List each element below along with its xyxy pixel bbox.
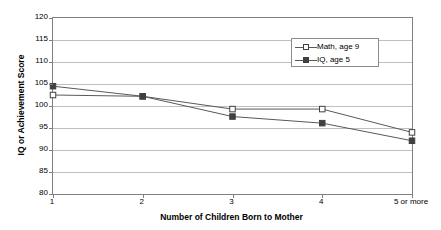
data-point-marker xyxy=(409,130,415,136)
legend-label: IQ, age 5 xyxy=(317,55,350,65)
x-axis-title: Number of Children Born to Mother xyxy=(52,212,411,222)
legend-entry: Math, age 9 xyxy=(295,41,375,53)
y-axis-tick xyxy=(49,18,53,19)
y-axis-tick-labels: 80859095100105110115120 xyxy=(0,0,48,230)
y-axis-tick xyxy=(49,150,53,151)
data-point-marker xyxy=(50,92,56,98)
x-axis-tick-labels: 12345 or more xyxy=(52,197,411,209)
y-tick-label: 100 xyxy=(4,101,48,109)
y-tick-label: 95 xyxy=(4,123,48,131)
y-tick-label: 90 xyxy=(4,145,48,153)
data-point-marker xyxy=(320,106,326,112)
x-tick-label: 2 xyxy=(140,197,144,207)
y-tick-label: 80 xyxy=(4,189,48,197)
data-point-marker xyxy=(409,138,415,144)
legend-entry: IQ, age 5 xyxy=(295,54,375,66)
open-square-icon xyxy=(295,42,317,53)
x-tick-label: 5 or more xyxy=(394,197,428,207)
filled-square-icon xyxy=(295,55,317,66)
x-tick-label: 4 xyxy=(319,197,323,207)
x-tick-label: 1 xyxy=(50,197,54,207)
y-axis-tick xyxy=(49,172,53,173)
y-axis-tick xyxy=(49,40,53,41)
y-axis-tick xyxy=(49,62,53,63)
line-chart: IQ or Achievement Score 8085909510010511… xyxy=(0,0,441,230)
y-tick-label: 105 xyxy=(4,79,48,87)
data-point-marker xyxy=(140,94,146,100)
legend-label: Math, age 9 xyxy=(317,42,359,52)
y-axis-tick xyxy=(49,128,53,129)
y-axis-tick xyxy=(49,84,53,85)
data-point-marker xyxy=(320,120,326,126)
data-point-marker xyxy=(230,106,236,112)
y-tick-label: 110 xyxy=(4,57,48,65)
y-axis-tick xyxy=(49,106,53,107)
data-point-marker xyxy=(230,114,236,120)
series-iq-age-5 xyxy=(50,83,415,143)
y-tick-label: 120 xyxy=(4,13,48,21)
y-tick-label: 115 xyxy=(4,35,48,43)
y-tick-label: 85 xyxy=(4,167,48,175)
x-tick-label: 3 xyxy=(229,197,233,207)
legend: Math, age 9IQ, age 5 xyxy=(291,38,379,67)
